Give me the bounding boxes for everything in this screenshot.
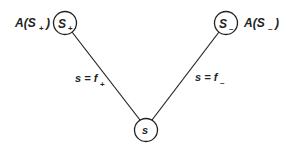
node-s: s <box>135 119 158 142</box>
node-s-plus-label: S <box>58 17 66 31</box>
annotation-a-s-minus-subscript: – <box>268 24 273 33</box>
annotation-a-s-minus-text: A(S <box>243 16 265 30</box>
edge-label-left: s = f + <box>75 72 105 89</box>
edge-label-right-subscript: – <box>220 78 225 87</box>
annotation-a-s-plus-subscript: + <box>39 24 44 33</box>
annotation-a-s-minus-close: ) <box>273 16 279 30</box>
annotation-a-s-plus-close: ) <box>44 16 50 30</box>
node-s-plus-subscript: + <box>68 24 73 33</box>
edge-label-right: s = f – <box>195 71 225 87</box>
node-s-label: s <box>142 124 148 136</box>
node-s-plus: S + <box>54 12 77 35</box>
annotation-a-s-plus: A(S + ) <box>14 16 50 33</box>
node-s-minus: S – <box>215 12 238 35</box>
node-s-minus-label: S <box>219 17 227 31</box>
node-s-minus-subscript: – <box>229 24 234 33</box>
edge-label-left-subscript: + <box>100 80 105 89</box>
annotation-a-s-minus: A(S – ) <box>243 16 279 33</box>
edge-label-right-text: s = f <box>195 71 219 83</box>
edge-label-left-text: s = f <box>75 72 99 84</box>
tree-diagram: S + A(S + ) S – A(S – ) s s = f + s = f … <box>0 0 292 152</box>
annotation-a-s-plus-text: A(S <box>14 16 36 30</box>
